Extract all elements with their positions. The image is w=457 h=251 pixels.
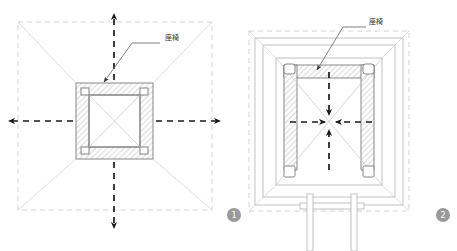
figure-badge-1: 1 xyxy=(227,208,241,222)
annotation-label-2: 座椅 xyxy=(369,17,384,26)
figure-badge-2-text: 2 xyxy=(440,211,445,220)
joint-tr xyxy=(363,64,374,74)
foot-br xyxy=(363,166,374,177)
corner-leg-tl xyxy=(81,88,89,95)
base-stand xyxy=(300,194,364,251)
foot-bl xyxy=(284,166,295,177)
annotation-label-1: 座椅 xyxy=(165,33,180,42)
motion-arrows-inward xyxy=(290,72,372,170)
annotation-leader-line-2 xyxy=(317,27,366,70)
corner-leg-tr xyxy=(140,88,148,95)
figure-1-group: 座椅 xyxy=(9,14,220,228)
joint-tl xyxy=(284,64,295,74)
drawing-sheet: 座椅 xyxy=(0,0,457,251)
perspective-rays xyxy=(18,22,212,210)
base-post-right xyxy=(351,194,357,251)
base-post-left xyxy=(307,194,313,251)
figure-badge-2: 2 xyxy=(436,208,450,222)
outer-boundary-dashed xyxy=(18,22,212,210)
figure-badges: 1 2 xyxy=(227,208,450,222)
corner-leg-markers-2 xyxy=(284,64,374,177)
annotation-leader-line-1 xyxy=(104,43,160,82)
figure-2-group: 座椅 xyxy=(249,17,409,251)
corner-leg-bl xyxy=(81,147,89,154)
figure-badge-1-text: 1 xyxy=(231,211,236,220)
technical-drawing-canvas: 座椅 xyxy=(0,0,457,251)
inner-diagonals xyxy=(89,95,140,147)
corner-leg-br xyxy=(140,147,148,154)
